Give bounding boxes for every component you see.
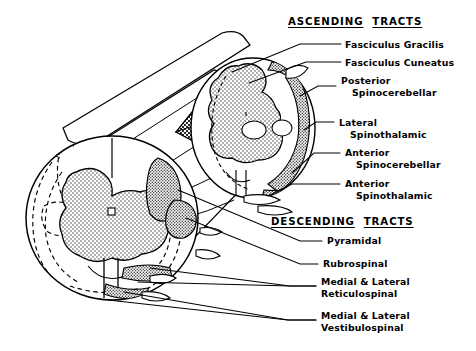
label-line-2: Reticulospinal bbox=[321, 288, 410, 300]
ascending-tracts-header: ASCENDING TRACTS bbox=[288, 16, 422, 27]
descending-header-word2: TRACTS bbox=[364, 216, 414, 227]
label-line-1: Fasciculus Cuneatus bbox=[345, 57, 454, 68]
label-line-1: Rubrospinal bbox=[323, 258, 388, 269]
label-rubrospinal: Rubrospinal bbox=[323, 258, 388, 270]
label-line-1: Anterior bbox=[345, 178, 390, 189]
descending-header-word1: DESCENDING bbox=[271, 216, 355, 227]
label-line-1: Medial & Lateral bbox=[321, 310, 410, 321]
label-line-2: Spinocerebellar bbox=[345, 159, 441, 171]
label-medial-lateral-vestibulospinal: Medial & Lateral Vestibulospinal bbox=[321, 310, 410, 333]
label-fasciculus-gracilis: Fasciculus Gracilis bbox=[345, 39, 444, 51]
label-medial-lateral-reticulospinal: Medial & Lateral Reticulospinal bbox=[321, 276, 410, 299]
label-line-2: Spinothalamic bbox=[345, 190, 433, 202]
label-fasciculus-cuneatus: Fasciculus Cuneatus bbox=[345, 57, 454, 69]
label-line-1: Fasciculus Gracilis bbox=[345, 39, 444, 50]
label-line-2: Spinocerebellar bbox=[341, 87, 437, 99]
ascending-header-word2: TRACTS bbox=[372, 16, 422, 27]
label-posterior-spinocerebellar: Posterior Spinocerebellar bbox=[341, 75, 437, 98]
label-line-1: Pyramidal bbox=[327, 235, 381, 246]
label-line-1: Posterior bbox=[341, 75, 391, 86]
label-line-1: Lateral bbox=[339, 117, 377, 128]
central-canal bbox=[108, 208, 115, 215]
ascending-header-word1: ASCENDING bbox=[288, 16, 363, 27]
descending-tracts-header: DESCENDING TRACTS bbox=[271, 216, 414, 227]
label-lateral-spinothalamic: Lateral Spinothalamic bbox=[339, 117, 427, 140]
label-pyramidal: Pyramidal bbox=[327, 235, 381, 247]
label-line-2: Spinothalamic bbox=[339, 129, 427, 141]
label-line-1: Anterior bbox=[345, 147, 390, 158]
far-cut-face bbox=[191, 58, 315, 199]
label-anterior-spinothalamic: Anterior Spinothalamic bbox=[345, 178, 433, 201]
label-line-1: Medial & Lateral bbox=[321, 276, 410, 287]
label-anterior-spinocerebellar: Anterior Spinocerebellar bbox=[345, 147, 441, 170]
near-cut-face bbox=[26, 136, 198, 300]
label-line-2: Vestibulospinal bbox=[321, 322, 410, 334]
